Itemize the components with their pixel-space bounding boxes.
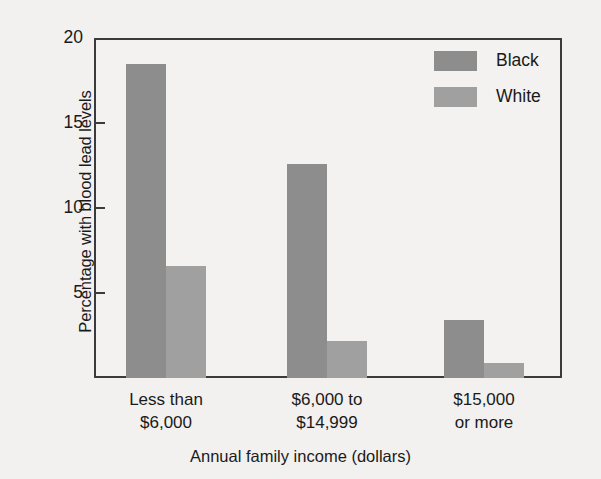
legend-swatch-white: [434, 87, 477, 107]
bar-black-group-3: [444, 320, 484, 378]
x-category-label-3: $15,000or more: [394, 388, 574, 434]
legend: BlackWhite: [434, 46, 564, 118]
x-axis-title: Annual family income (dollars): [0, 447, 601, 466]
y-tick-label: 10: [23, 199, 83, 217]
x-category-line-1: Less than: [129, 390, 203, 409]
bar-white-group-3: [484, 363, 524, 378]
x-category-label-1: Less than$6,000: [76, 388, 256, 434]
y-tick-label: 15: [23, 114, 83, 132]
y-tick-label: 20: [23, 29, 83, 47]
legend-swatch-black: [434, 51, 477, 71]
y-tick-label: 5: [23, 284, 83, 302]
legend-label-black: Black: [496, 52, 539, 70]
x-category-label-2: $6,000 to$14,999: [237, 388, 417, 434]
legend-label-white: White: [496, 88, 541, 106]
y-tick-mark: [94, 122, 105, 124]
y-tick-mark: [94, 207, 105, 209]
bar-black-group-2: [287, 164, 327, 378]
x-category-line-1: $15,000: [453, 390, 514, 409]
x-category-line-1: $6,000 to: [292, 390, 363, 409]
x-category-line-2: $6,000: [76, 411, 256, 434]
x-category-line-2: $14,999: [237, 411, 417, 434]
bar-black-group-1: [126, 64, 166, 379]
legend-item-white[interactable]: White: [434, 82, 564, 112]
bar-white-group-2: [327, 341, 367, 378]
bar-chart-figure: Percentage with blood lead levels 510152…: [0, 0, 601, 479]
bar-white-group-1: [166, 266, 206, 378]
x-category-line-2: or more: [394, 411, 574, 434]
legend-item-black[interactable]: Black: [434, 46, 564, 76]
y-tick-mark: [94, 292, 105, 294]
